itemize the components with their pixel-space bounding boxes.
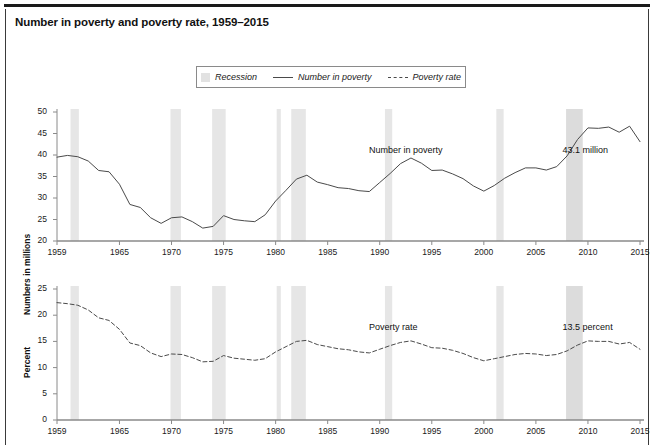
x-axis-tick-label: 2015 (623, 247, 654, 257)
x-axis-tick-label: 1990 (363, 426, 397, 436)
recession-band (71, 109, 79, 241)
legend-label-poverty-rate: Poverty rate (413, 72, 462, 82)
y-axis-tick-label: 15 (27, 335, 47, 345)
x-axis-tick-label: 2010 (571, 426, 605, 436)
y-axis-tick-label: 25 (27, 214, 47, 224)
y-axis-tick-label: 35 (27, 171, 47, 181)
x-axis-tick-label: 1975 (207, 426, 241, 436)
recession-band (277, 109, 281, 241)
solid-line-icon (273, 77, 293, 78)
legend-item-number-in-poverty: Number in poverty (273, 72, 372, 82)
recession-band (566, 286, 583, 420)
recession-band (496, 286, 503, 420)
recession-band (291, 286, 306, 420)
y-axis-tick-label: 5 (27, 388, 47, 398)
legend-item-poverty-rate: Poverty rate (388, 72, 462, 82)
x-axis-tick-label: 1990 (363, 247, 397, 257)
y-axis-tick-label: 30 (27, 192, 47, 202)
y-axis-tick-label: 10 (27, 362, 47, 372)
y-axis-tick-label: 45 (27, 128, 47, 138)
x-axis-tick-label: 1959 (40, 426, 74, 436)
recession-swatch-icon (201, 73, 210, 82)
x-axis-tick-label: 2000 (467, 426, 501, 436)
dashed-line-icon (388, 77, 408, 78)
y-axis-tick-label: 20 (27, 309, 47, 319)
legend-item-recession: Recession (201, 72, 257, 82)
recession-band (291, 109, 306, 241)
legend-label-number-in-poverty: Number in poverty (298, 72, 372, 82)
recession-band (212, 109, 226, 241)
y-axis-tick-label: 20 (27, 235, 47, 245)
x-axis-tick-label: 1995 (415, 247, 449, 257)
data-series-line-poverty-rate (57, 303, 640, 362)
series-annotation: 13.5 percent (563, 322, 613, 332)
x-axis-tick-label: 2010 (571, 247, 605, 257)
y-axis-tick-label: 0 (27, 414, 47, 424)
top-rule-divider (4, 4, 650, 7)
x-axis-tick-label: 2005 (519, 247, 553, 257)
recession-band (566, 109, 583, 241)
x-axis-tick-label: 1995 (415, 426, 449, 436)
series-annotation: Poverty rate (369, 322, 418, 332)
x-axis-tick-label: 1970 (155, 426, 189, 436)
plot-area-poverty-rate (0, 278, 654, 445)
x-axis-tick-label: 2000 (467, 247, 501, 257)
x-axis-tick-label: 1965 (102, 426, 136, 436)
legend-label-recession: Recession (215, 72, 257, 82)
chart-legend: Recession Number in poverty Poverty rate (196, 66, 466, 88)
recession-band (385, 286, 392, 420)
chart-panel-poverty-rate: Percent 05101520251959196519701975198019… (0, 278, 654, 445)
x-axis-tick-label: 1970 (155, 247, 189, 257)
x-axis-tick-label: 1965 (102, 247, 136, 257)
x-axis-tick-label: 1959 (40, 247, 74, 257)
y-axis-tick-label: 50 (27, 106, 47, 116)
x-axis-tick-label: 2005 (519, 426, 553, 436)
chart-panel-number-in-poverty: Numbers in millions 20253035404550195919… (0, 100, 654, 260)
recession-band (212, 286, 226, 420)
x-axis-tick-label: 1985 (311, 247, 345, 257)
x-axis-tick-label: 1980 (259, 247, 293, 257)
figure-container: Number in poverty and poverty rate, 1959… (0, 0, 654, 445)
x-axis-tick-label: 2015 (623, 426, 654, 436)
y-axis-tick-label: 40 (27, 149, 47, 159)
x-axis-tick-label: 1975 (207, 247, 241, 257)
series-annotation: Number in poverty (369, 145, 443, 155)
plot-area-number-in-poverty (0, 100, 654, 260)
recession-band (170, 286, 180, 420)
series-annotation: 43.1 million (563, 145, 609, 155)
data-series-line-number-in-poverty (57, 126, 640, 228)
x-axis-tick-label: 1985 (311, 426, 345, 436)
page-title: Number in poverty and poverty rate, 1959… (15, 16, 269, 28)
recession-band (170, 109, 180, 241)
recession-band (277, 286, 281, 420)
recession-band (71, 286, 79, 420)
y-axis-tick-label: 25 (27, 283, 47, 293)
recession-band (496, 109, 503, 241)
x-axis-tick-label: 1980 (259, 426, 293, 436)
